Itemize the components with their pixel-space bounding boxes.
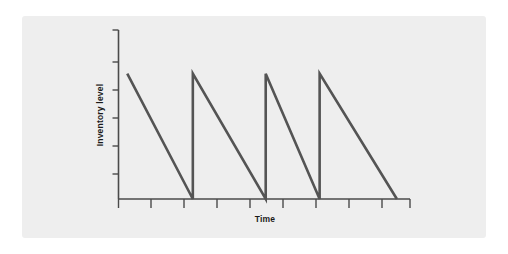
y-axis-ticks [113,30,119,174]
inventory-sawtooth-series[interactable] [127,74,397,199]
inventory-level-chart[interactable]: Time Inventory level [0,0,508,254]
x-axis-ticks [119,199,411,208]
x-axis-title: Time [255,214,276,224]
figure-container: Time Inventory level [0,0,508,254]
y-axis-title: Inventory level [95,84,105,147]
